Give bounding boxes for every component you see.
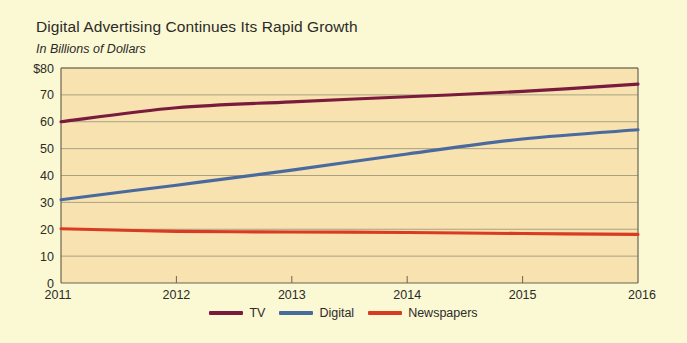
- x-axis-tick-label: 2012: [162, 288, 190, 302]
- y-axis-tick-label: 10: [40, 250, 54, 264]
- x-axis-tick-labels: 201120122013201420152016: [45, 288, 656, 302]
- x-axis-tick-label: 2016: [628, 288, 656, 302]
- y-axis-tick-label: 60: [40, 115, 54, 129]
- legend-item-tv[interactable]: TV: [209, 306, 265, 320]
- y-axis-tick-label: 40: [40, 169, 54, 183]
- y-axis-tick-labels: $80706050403020100: [33, 62, 54, 291]
- x-axis-tick-label: 2014: [393, 288, 421, 302]
- legend-label: TV: [249, 306, 265, 320]
- legend-label: Digital: [319, 306, 354, 320]
- legend-swatch-icon: [209, 311, 243, 315]
- y-axis-tick-label: 50: [40, 142, 54, 156]
- chart-plot-area: $80706050403020100 201120122013201420152…: [0, 0, 687, 343]
- legend-item-digital[interactable]: Digital: [279, 306, 354, 320]
- chart-legend: TVDigitalNewspapers: [0, 306, 687, 320]
- x-axis-tick-label: 2015: [509, 288, 537, 302]
- x-axis-tick-label: 2011: [45, 288, 72, 302]
- chart-figure: Digital Advertising Continues Its Rapid …: [0, 0, 687, 343]
- y-axis-tick-label: 70: [40, 88, 54, 102]
- y-axis-tick-label: 30: [40, 196, 54, 210]
- legend-swatch-icon: [279, 311, 313, 315]
- y-axis-tick-label: 20: [40, 223, 54, 237]
- legend-swatch-icon: [368, 311, 402, 315]
- legend-item-newspapers[interactable]: Newspapers: [368, 306, 477, 320]
- legend-label: Newspapers: [408, 306, 477, 320]
- x-axis-tick-label: 2013: [278, 288, 306, 302]
- y-axis-tick-label: $80: [33, 62, 54, 76]
